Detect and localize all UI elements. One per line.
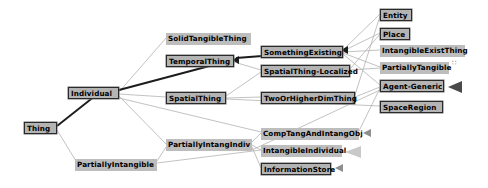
ontology-graph-canvas: Thing Individual PartiallyIntangible Sol… xyxy=(0,0,488,188)
edge-spatialthinglocalized-place xyxy=(350,34,380,69)
node-intangible-individual-label: IntangibleIndividual xyxy=(263,145,340,156)
edge-spatialthing-spatialthinglocalized xyxy=(226,72,261,96)
partially-tangible-dots-icon: ∷ xyxy=(452,61,456,66)
edge-individual-spatialthing xyxy=(119,94,166,97)
node-entity[interactable]: Entity xyxy=(380,9,412,21)
node-partially-tangible-label: PartiallyTangible xyxy=(382,62,447,73)
node-partially-intang-indiv-label: PartiallyIntangIndiv xyxy=(168,139,250,150)
node-comp-tang-and-intang-obj-label: CompTangAndIntangObj xyxy=(263,128,357,139)
node-partially-intangible-label: PartiallyIntangible xyxy=(77,159,155,170)
node-agent-generic[interactable]: Agent-Generic xyxy=(380,80,444,92)
edge-partiallyintangindiv-informationstore xyxy=(252,147,261,168)
node-partially-tangible[interactable]: PartiallyTangible xyxy=(380,62,449,74)
node-spatial-thing-label: SpatialThing xyxy=(169,93,223,104)
node-spatial-thing-localized-label: SpatialThing-Localized xyxy=(264,66,347,77)
node-partially-intang-indiv[interactable]: PartiallyIntangIndiv xyxy=(166,139,252,151)
node-space-region-label: SpaceRegion xyxy=(383,102,440,113)
edge-twoorhigherdimthing-entity xyxy=(355,16,380,95)
terminal-arrow-agent-generic-icon xyxy=(448,81,462,93)
node-entity-label: Entity xyxy=(383,10,409,21)
node-information-store-label: InformationStore xyxy=(264,164,328,175)
node-individual-label: Individual xyxy=(71,88,116,99)
node-something-existing[interactable]: SomethingExisting xyxy=(261,46,343,58)
node-temporal-thing[interactable]: TemporalThing xyxy=(166,55,234,67)
edge-individual-partiallyintangindiv xyxy=(119,96,166,144)
node-comp-tang-and-intang-obj[interactable]: CompTangAndIntangObj xyxy=(261,128,359,140)
node-thing[interactable]: Thing xyxy=(24,122,57,134)
node-space-region[interactable]: SpaceRegion xyxy=(380,101,443,113)
node-solid-tangible-thing-label: SolidTangibleThing xyxy=(168,33,249,44)
node-individual[interactable]: Individual xyxy=(68,87,119,99)
node-information-store[interactable]: InformationStore xyxy=(261,163,331,175)
node-spatial-thing[interactable]: SpatialThing xyxy=(166,92,226,104)
edge-somethingexisting-intangibleexistthing xyxy=(343,50,380,52)
node-intangible-exist-thing[interactable]: IntangibleExistThing xyxy=(380,45,465,57)
edge-partiallyintangindiv-comptangandintangobj xyxy=(252,133,261,142)
edge-partiallyintangible-partiallyintangindiv xyxy=(157,147,166,161)
edge-partiallyintangindiv-intangibleindividual xyxy=(252,145,261,150)
terminal-arrow-intangible-individual-icon xyxy=(345,146,361,158)
node-two-or-higher-dim-thing[interactable]: TwoOrHigherDimThing xyxy=(261,92,355,104)
node-solid-tangible-thing[interactable]: SolidTangibleThing xyxy=(166,33,251,45)
node-place-label: Place xyxy=(383,29,407,40)
edge-comptangandintangobj-agentgeneric xyxy=(359,88,380,131)
edge-somethingexisting-place xyxy=(343,33,380,51)
node-temporal-thing-label: TemporalThing xyxy=(169,56,231,67)
terminal-arrow-information-store-icon xyxy=(335,164,343,172)
node-partially-intangible[interactable]: PartiallyIntangible xyxy=(75,159,157,171)
node-something-existing-label: SomethingExisting xyxy=(264,47,340,58)
edge-spatialthing-twoorhigherdimthing xyxy=(226,97,261,98)
node-intangible-exist-thing-label: IntangibleExistThing xyxy=(382,45,463,56)
node-agent-generic-label: Agent-Generic xyxy=(383,81,441,92)
edge-somethingexisting-entity xyxy=(343,14,380,50)
node-two-or-higher-dim-thing-label: TwoOrHigherDimThing xyxy=(264,93,352,104)
node-thing-label: Thing xyxy=(27,123,54,134)
edge-individual-solidtangiblething xyxy=(119,38,166,92)
terminal-arrow-comp-tang-and-intang-obj-icon xyxy=(363,129,371,137)
node-place[interactable]: Place xyxy=(380,28,410,40)
node-spatial-thing-localized[interactable]: SpatialThing-Localized xyxy=(261,65,350,77)
node-intangible-individual[interactable]: IntangibleIndividual xyxy=(261,145,342,157)
edge-twoorhigherdimthing-agentgeneric xyxy=(355,87,380,97)
edge-thing-partiallyintangible xyxy=(57,130,76,161)
edge-crossing-b xyxy=(157,150,261,163)
edge-temporalthing-spatialthinglocalized xyxy=(234,62,261,70)
